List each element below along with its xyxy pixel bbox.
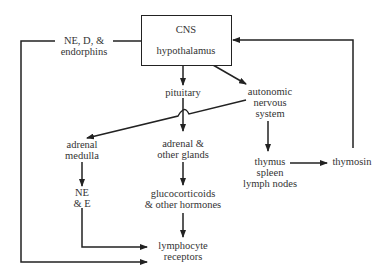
- cns-box: [141, 15, 232, 66]
- thymosin-label: thymosin: [332, 156, 371, 167]
- edge-ans-to-adrenal-medulla: [87, 100, 246, 138]
- glucocorticoids-label-2: & other hormones: [145, 199, 221, 210]
- ne-d-label: NE, D, &: [64, 35, 104, 46]
- adrenal-medulla-label-2: medulla: [65, 150, 99, 161]
- ans-label-3: system: [255, 108, 284, 119]
- ne-e-label-2: & E: [73, 198, 90, 209]
- adrenal-glands-label-2: other glands: [157, 149, 209, 160]
- pituitary-label: pituitary: [165, 87, 201, 98]
- thymus-label-2: spleen: [257, 167, 284, 178]
- glucocorticoids-label-1: glucocorticoids: [151, 188, 216, 199]
- ans-label-1: autonomic: [248, 86, 292, 97]
- thymus-label-1: thymus: [255, 156, 286, 167]
- adrenal-medulla-label-1: adrenal: [67, 139, 98, 150]
- hypothalamus-label: hypothalamus: [157, 45, 216, 56]
- lymphocyte-label-2: receptors: [164, 251, 202, 262]
- cns-label: CNS: [176, 24, 196, 35]
- lymphocyte-label-1: lymphocyte: [158, 240, 208, 251]
- ne-e-label-1: NE: [75, 187, 89, 198]
- edge-cns-to-ans: [213, 65, 246, 84]
- ans-label-2: nervous: [253, 97, 286, 108]
- adrenal-glands-label-1: adrenal &: [162, 138, 204, 149]
- edge-ne-e-to-lymphocyte: [82, 208, 147, 247]
- endorphins-label: endorphins: [61, 46, 108, 57]
- thymus-label-3: lymph nodes: [243, 178, 297, 189]
